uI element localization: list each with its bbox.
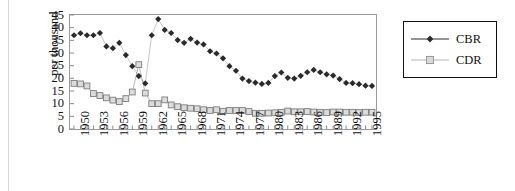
- x-tick-label: 1953: [98, 111, 111, 136]
- x-tick-label: 1950: [79, 111, 92, 136]
- x-tick-label: 1962: [157, 111, 170, 136]
- x-tick-label: 1980: [273, 111, 286, 136]
- x-tick-label: 1971: [215, 111, 228, 136]
- y-tick-label: 40: [40, 21, 64, 34]
- y-tick-label: 10: [40, 97, 64, 110]
- x-axis-tick-labels: 1950195319561959196219651968197119741977…: [69, 132, 377, 190]
- chart-legend: CBR CDR: [403, 21, 497, 78]
- y-tick-label: 20: [40, 72, 64, 85]
- legend-marker-cbr-icon: [410, 31, 450, 47]
- legend-item-cbr: CBR: [410, 31, 494, 47]
- y-tick-label: 5: [40, 110, 64, 123]
- x-tick-label: 1977: [254, 111, 267, 136]
- y-tick-label: 35: [40, 34, 64, 47]
- y-tick-label: 25: [40, 59, 64, 72]
- y-tick-label: 0: [40, 123, 64, 136]
- x-tick-label: 1992: [351, 111, 364, 136]
- y-tick-label: 45: [40, 9, 64, 22]
- x-tick-label: 1986: [312, 111, 325, 136]
- figure-page: per thousand 051015202530354045 19501953…: [0, 0, 515, 191]
- x-tick-label: 1983: [293, 111, 306, 136]
- x-tick-label: 1995: [371, 111, 384, 136]
- legend-item-cdr: CDR: [410, 52, 494, 68]
- legend-label-cdr: CDR: [456, 53, 482, 67]
- legend-marker-cdr-icon: [410, 52, 450, 68]
- y-tick-label: 15: [40, 85, 64, 98]
- legend-label-cbr: CBR: [456, 32, 481, 46]
- x-tick-label: 1989: [332, 111, 345, 136]
- x-tick-label: 1956: [118, 111, 131, 136]
- chart-figure: per thousand 051015202530354045 19501953…: [0, 0, 515, 191]
- x-tick-label: 1965: [176, 111, 189, 136]
- x-tick-label: 1974: [234, 111, 247, 136]
- x-tick-label: 1959: [137, 111, 150, 136]
- y-tick-label: 30: [40, 47, 64, 60]
- x-tick-label: 1968: [196, 111, 209, 136]
- y-axis-tick-labels: 051015202530354045: [38, 14, 64, 130]
